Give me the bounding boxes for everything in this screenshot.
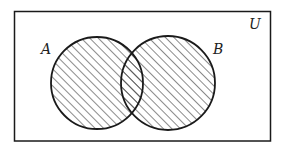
universe-label: U (249, 16, 262, 32)
set-a-label: A (39, 41, 51, 57)
venn-diagram: A B U (0, 0, 285, 153)
set-b-label: B (212, 41, 223, 57)
